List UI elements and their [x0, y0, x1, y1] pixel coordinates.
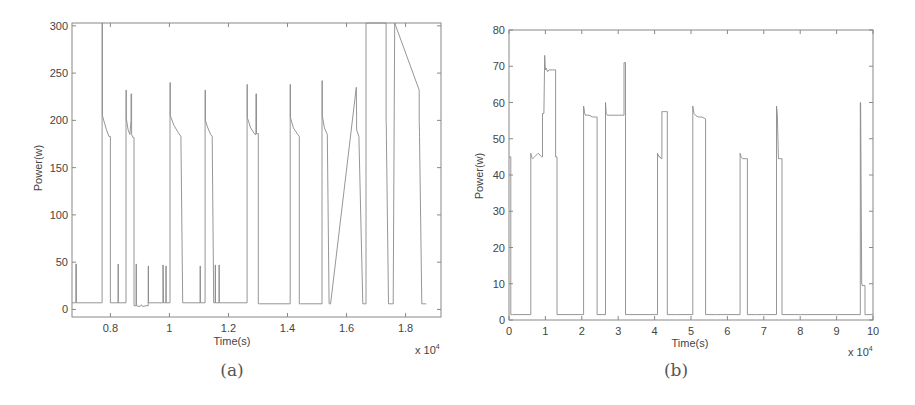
y-tick-label: 300 [50, 20, 68, 32]
y-tick-label: 250 [50, 67, 68, 79]
chart-b-xlabel: Time(s) [672, 337, 709, 349]
y-tick-label: 30 [493, 205, 505, 217]
x-tick-label: 1 [542, 325, 548, 337]
chart-b-power-trace [509, 55, 873, 314]
y-tick-label: 0 [499, 314, 505, 326]
chart-a-xlabel: Time(s) [214, 335, 251, 347]
y-tick-label: 60 [493, 97, 505, 109]
x-tick-label: 6 [724, 325, 730, 337]
x-tick-label: 0.8 [103, 322, 118, 334]
y-tick-label: 40 [493, 169, 505, 181]
y-tick-label: 50 [56, 256, 68, 268]
chart-b-ylabel: Power(w) [473, 153, 485, 199]
y-tick-label: 80 [493, 24, 505, 36]
y-tick-label: 100 [50, 209, 68, 221]
chart-b-x-multiplier: x 104 [848, 345, 873, 358]
chart-b-ticks: 01234567891001020304050607080 [493, 24, 879, 337]
x-tick-label: 5 [688, 325, 694, 337]
chart-b: 01234567891001020304050607080 Time(s) Po… [473, 24, 879, 380]
y-tick-label: 70 [493, 60, 505, 72]
chart-a-caption: (a) [220, 360, 243, 380]
x-tick-label: 1.4 [280, 322, 295, 334]
x-tick-label: 10 [867, 325, 879, 337]
x-tick-label: 3 [615, 325, 621, 337]
x-tick-label: 0 [506, 325, 512, 337]
y-tick-label: 0 [62, 303, 68, 315]
x-tick-label: 1 [166, 322, 172, 334]
chart-a-ylabel: Power(w) [32, 145, 44, 191]
y-tick-label: 20 [493, 242, 505, 254]
y-tick-label: 150 [50, 162, 68, 174]
x-tick-label: 4 [652, 325, 658, 337]
y-tick-label: 50 [493, 133, 505, 145]
chart-b-caption: (b) [664, 360, 688, 380]
x-tick-label: 8 [797, 325, 803, 337]
y-tick-label: 10 [493, 278, 505, 290]
figure-canvas: 0.811.21.41.61.8050100150200250300 Time(… [0, 0, 915, 405]
x-tick-label: 9 [834, 325, 840, 337]
x-tick-label: 1.6 [339, 322, 354, 334]
chart-a-x-multiplier: x 104 [415, 343, 440, 356]
x-tick-label: 1.2 [221, 322, 236, 334]
chart-a: 0.811.21.41.61.8050100150200250300 Time(… [32, 20, 441, 380]
chart-b-frame [509, 30, 873, 320]
x-tick-label: 7 [761, 325, 767, 337]
x-tick-label: 1.8 [398, 322, 413, 334]
y-tick-label: 200 [50, 114, 68, 126]
chart-a-ticks: 0.811.21.41.61.8050100150200250300 [50, 20, 441, 334]
chart-a-power-trace [72, 23, 426, 307]
x-tick-label: 2 [579, 325, 585, 337]
